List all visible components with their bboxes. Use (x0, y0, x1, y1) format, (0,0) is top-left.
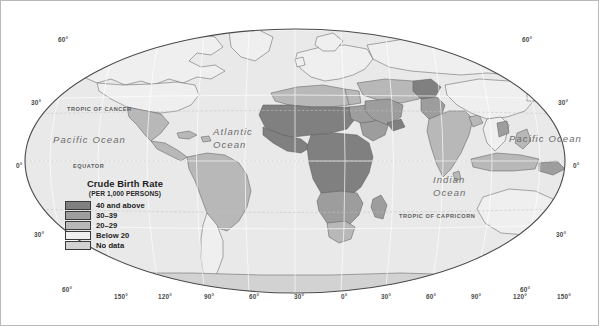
legend-class-list: 40 and above30–3920–29Below 20No data (65, 201, 185, 250)
legend-swatch (65, 231, 91, 240)
legend-subtitle: (PER 1,000 PERSONS) (65, 190, 185, 197)
legend-label: Below 20 (96, 231, 129, 240)
world-map-canvas (1, 1, 599, 326)
continent-antarctica (9, 273, 591, 301)
legend-label: 20–29 (96, 221, 117, 230)
country-japan (535, 81, 549, 101)
country-alaska (27, 43, 63, 65)
legend-swatch (65, 211, 91, 220)
legend-row: 20–29 (65, 221, 185, 230)
legend-swatch (65, 201, 91, 210)
country-new-zealand (565, 225, 581, 245)
legend-label: 40 and above (96, 201, 145, 210)
world-map-figure: Pacific OceanAtlanticOceanIndianOceanPac… (0, 0, 599, 326)
legend-title: Crude Birth Rate (65, 178, 185, 189)
legend-row: No data (65, 241, 185, 250)
legend-label: No data (96, 241, 124, 250)
legend-swatch (65, 241, 91, 250)
legend-row: Below 20 (65, 231, 185, 240)
legend-swatch (65, 221, 91, 230)
country-united-kingdom (295, 57, 305, 67)
legend-row: 40 and above (65, 201, 185, 210)
legend-row: 30–39 (65, 211, 185, 220)
legend-label: 30–39 (96, 211, 117, 220)
map-legend: Crude Birth Rate (PER 1,000 PERSONS) 40 … (65, 178, 185, 251)
